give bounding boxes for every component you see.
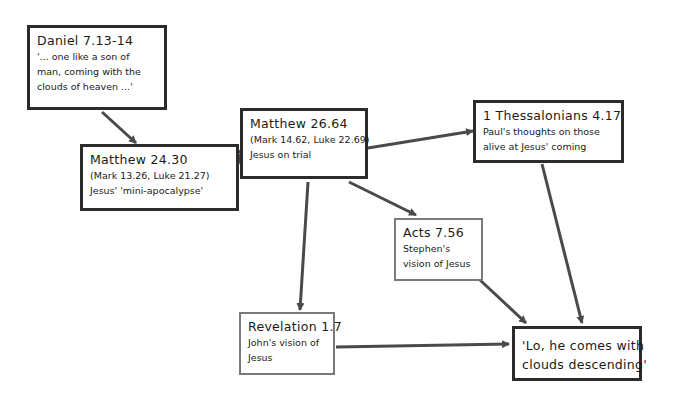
edge-matt2664-to-acts xyxy=(349,182,416,215)
node-text: Stephen's xyxy=(403,241,474,256)
node-revelation: Revelation 1.7 John's vision of Jesus xyxy=(239,312,335,375)
node-text: Jesus' 'mini-apocalypse' xyxy=(90,183,229,198)
node-text: vision of Jesus xyxy=(403,256,474,271)
node-title: 1 Thessalonians 4.17 xyxy=(483,108,614,124)
edge-matt2664-to-thess xyxy=(368,131,473,148)
node-matthew-24-30: Matthew 24.30 (Mark 13.26, Luke 21.27) J… xyxy=(80,144,239,211)
edge-matt2664-to-rev xyxy=(300,182,308,310)
node-text: Paul's thoughts on those xyxy=(483,124,614,139)
node-title: Matthew 26.64 xyxy=(250,116,358,132)
node-text: alive at Jesus' coming xyxy=(483,139,614,154)
node-title: Acts 7.56 xyxy=(403,225,474,241)
node-matthew-26-64: Matthew 26.64 (Mark 14.62, Luke 22.69) J… xyxy=(240,108,368,179)
node-text: clouds of heaven ...' xyxy=(37,79,157,94)
node-text: clouds descending' xyxy=(522,355,632,374)
node-text: Jesus on trial xyxy=(250,147,358,162)
edge-rev-to-lo xyxy=(336,344,509,347)
node-text: 'Lo, he comes with xyxy=(522,336,632,355)
node-acts: Acts 7.56 Stephen's vision of Jesus xyxy=(394,218,483,281)
node-text: (Mark 13.26, Luke 21.27) xyxy=(90,168,229,183)
edge-daniel-to-matt2430 xyxy=(102,112,136,143)
node-lo-he-comes: 'Lo, he comes with clouds descending' xyxy=(512,326,642,381)
node-1-thessalonians: 1 Thessalonians 4.17 Paul's thoughts on … xyxy=(473,100,624,163)
node-text: '... one like a son of xyxy=(37,49,157,64)
node-title: Revelation 1.7 xyxy=(248,319,326,335)
node-text: John's vision of xyxy=(248,335,326,350)
node-title: Matthew 24.30 xyxy=(90,152,229,168)
node-text: man, coming with the xyxy=(37,64,157,79)
node-daniel: Daniel 7.13-14 '... one like a son of ma… xyxy=(27,25,167,110)
edge-thess-to-lo xyxy=(542,164,582,323)
node-text: (Mark 14.62, Luke 22.69) xyxy=(250,132,358,147)
node-text: Jesus xyxy=(248,350,326,365)
node-title: Daniel 7.13-14 xyxy=(37,33,157,49)
edge-acts-to-lo xyxy=(480,280,526,323)
